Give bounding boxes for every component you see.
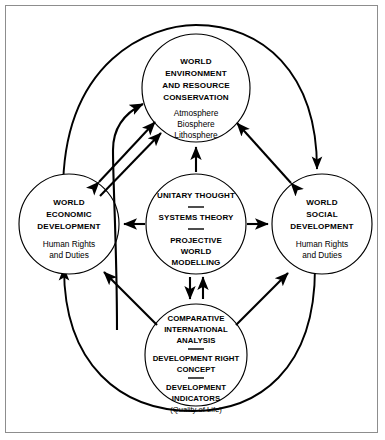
analysis-line-quality-of-life: (Quality of Life) [170, 405, 222, 414]
social-heading-line-3: DEVELOPMENT [290, 222, 353, 231]
environment-item-lithosphere: Lithosphere [174, 130, 218, 140]
economic-item-and-duties: and Duties [49, 250, 89, 260]
social-item-human-rights: Human Rights [296, 239, 349, 249]
connector-economic-environment-double [99, 122, 155, 182]
core-line-modelling: MODELLING [172, 258, 221, 267]
economic-heading-line-2: ECONOMIC [46, 210, 92, 219]
core-line-systems-theory: SYSTEMS THEORY [159, 213, 234, 222]
connector-analysis-environment-diagonal [100, 133, 161, 196]
analysis-line-indicators: INDICATORS [172, 394, 220, 403]
analysis-line-analysis: ANALYSIS [176, 336, 215, 345]
economic-item-human-rights: Human Rights [43, 239, 96, 249]
social-item-and-duties: and Duties [302, 250, 342, 260]
economic-heading-line-1: WORLD [53, 198, 84, 207]
economic-heading-line-3: DEVELOPMENT [37, 222, 100, 231]
environment-heading-line-1: WORLD [180, 57, 211, 66]
social-heading-line-2: SOCIAL [306, 210, 337, 219]
connector-analysis-to-economic [104, 272, 157, 325]
connector-analysis-to-social [236, 273, 288, 325]
analysis-line-development-right: DEVELOPMENT RIGHT [153, 354, 240, 363]
social-heading-line-1: WORLD [306, 198, 337, 207]
diagram-root: WORLD ENVIRONMENT AND RESOURCE CONSERVAT… [0, 0, 385, 440]
analysis-line-development: DEVELOPMENT [166, 383, 226, 392]
core-line-world: WORLD [181, 247, 212, 256]
environment-heading-line-2: ENVIRONMENT [165, 69, 226, 78]
environment-item-atmosphere: Atmosphere [174, 108, 219, 118]
analysis-line-comparative: COMPARATIVE [167, 314, 224, 323]
analysis-line-international: INTERNATIONAL [164, 325, 228, 334]
environment-heading-line-3: AND RESOURCE [162, 81, 230, 90]
environment-item-biosphere: Biosphere [177, 119, 215, 129]
analysis-line-concept: CONCEPT [177, 365, 216, 374]
connector-social-environment-double [237, 123, 291, 183]
core-line-projective: PROJECTIVE [170, 236, 222, 245]
core-line-unitary-thought: UNITARY THOUGHT [157, 191, 235, 200]
environment-heading-line-4: CONSERVATION [163, 93, 229, 102]
diagram-canvas: WORLD ENVIRONMENT AND RESOURCE CONSERVAT… [0, 0, 385, 440]
